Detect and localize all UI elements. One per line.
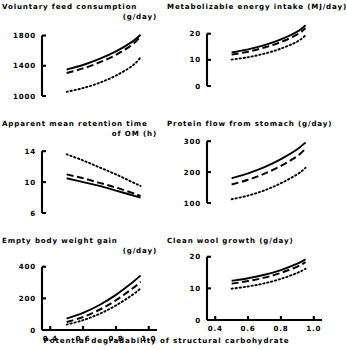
chart-apparent-mean-retention-time-om: 61014 [2, 139, 162, 231]
panel-apparent-mean-retention-time: Apparent mean retention time of OM (h) 6… [2, 119, 162, 231]
series-line-dotted [232, 35, 306, 59]
y-tick-label: 10 [190, 55, 201, 64]
panel-title: Clean wool growth (g/day) [167, 236, 327, 246]
x-tick-label: 0.4 [208, 324, 223, 333]
axes: 010200.40.60.81.0 [190, 252, 322, 333]
y-tick-label: 6 [30, 209, 36, 218]
axes: 02004000.40.60.81.0 [19, 262, 157, 343]
y-tick-label: 200 [184, 168, 201, 177]
x-tick-label: 0.8 [273, 324, 288, 333]
chart-protein-flow-from-stomach: 100200300 [167, 129, 327, 221]
chart-clean-wool-growth: 010200.40.60.81.0 [167, 246, 327, 350]
y-tick-label: 200 [19, 294, 36, 303]
panel-title: Protein flow from stomach (g/day) [167, 119, 332, 129]
panel-title: Apparent mean retention time [2, 119, 162, 129]
axes: 100200300 [184, 137, 211, 208]
panel-title: Empty body weight gain [2, 236, 162, 246]
y-tick-label: 0 [30, 326, 36, 335]
plot-area: 100200300 [167, 129, 332, 221]
panel-title-line2: (g/day) [2, 246, 157, 256]
y-tick-label: 0 [195, 316, 201, 325]
axes: 01020 [190, 29, 211, 90]
y-tick-label: 0 [195, 82, 201, 91]
panel-protein-flow-from-stomach: Protein flow from stomach (g/day) 100200… [167, 119, 332, 221]
y-tick-label: 1800 [13, 31, 36, 40]
y-tick-label: 1400 [13, 61, 36, 70]
panel-title-line2: of OM (h) [2, 129, 157, 139]
series-line-solid [67, 35, 141, 70]
panel-title: Voluntary feed consumption [2, 2, 162, 12]
panel-voluntary-feed-consumption: Voluntary feed consumption (g/day) 10001… [2, 2, 162, 114]
axes: 100014001800 [13, 31, 46, 100]
series-line-dashed [67, 174, 141, 196]
series-line-dashed [232, 149, 306, 185]
shared-x-axis-caption: Potential degradability of structural ca… [0, 336, 333, 345]
panel-metabolizable-energy-intake: Metabolizable energy intake (MJ/day) 010… [167, 2, 347, 104]
series-line-solid [232, 25, 306, 52]
axes: 61014 [25, 147, 46, 218]
chart-metabolizable-energy-intake: 01020 [167, 12, 327, 104]
plot-area: 100014001800 [2, 22, 162, 114]
y-tick-label: 300 [184, 137, 201, 146]
series-line-solid [232, 142, 306, 178]
y-tick-label: 10 [25, 178, 36, 187]
series-line-dotted [67, 57, 141, 91]
y-tick-label: 20 [190, 29, 201, 38]
series-line-dotted [232, 168, 306, 200]
panel-title-line2: (g/day) [2, 12, 157, 22]
y-tick-label: 14 [25, 147, 36, 156]
y-tick-label: 100 [184, 199, 201, 208]
plot-area: 010200.40.60.81.0 [167, 246, 327, 350]
y-tick-label: 1000 [13, 92, 36, 101]
y-tick-label: 400 [19, 262, 36, 271]
x-tick-label: 1.0 [306, 324, 321, 333]
panel-title: Metabolizable energy intake (MJ/day) [167, 2, 347, 12]
y-tick-label: 10 [190, 284, 201, 293]
y-tick-label: 20 [190, 252, 201, 261]
plot-area: 01020 [167, 12, 347, 104]
plot-area: 61014 [2, 139, 162, 231]
panel-empty-body-weight-gain: Empty body weight gain (g/day) 02004000.… [2, 236, 162, 350]
x-tick-label: 0.6 [241, 324, 256, 333]
panel-clean-wool-growth: Clean wool growth (g/day) 010200.40.60.8… [167, 236, 327, 350]
chart-voluntary-feed-consumption: 100014001800 [2, 22, 162, 114]
